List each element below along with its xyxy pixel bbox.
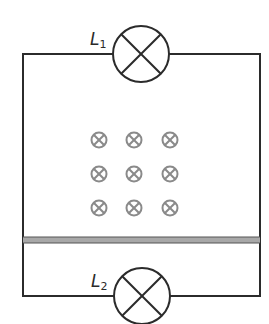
conducting-rod [23,237,260,243]
field-into-page-icon [127,201,142,216]
lamp-l2-icon [114,268,170,324]
field-into-page-icon [163,167,178,182]
field-into-page-icon [92,167,107,182]
lamp-l1-icon [113,26,169,82]
field-into-page-icon [127,133,142,148]
lamp-l1-label: L1 [90,31,106,50]
field-into-page-icon [92,133,107,148]
field-into-page-icon [163,201,178,216]
magnetic-field-grid [92,133,178,216]
lamp-l2-label: L2 [91,273,107,292]
lamp-l1-label-subscript: 1 [99,38,106,51]
field-into-page-icon [163,133,178,148]
lamp-l2-label-subscript: 2 [100,280,107,293]
circuit-diagram [0,0,269,324]
field-into-page-icon [127,167,142,182]
field-into-page-icon [92,201,107,216]
